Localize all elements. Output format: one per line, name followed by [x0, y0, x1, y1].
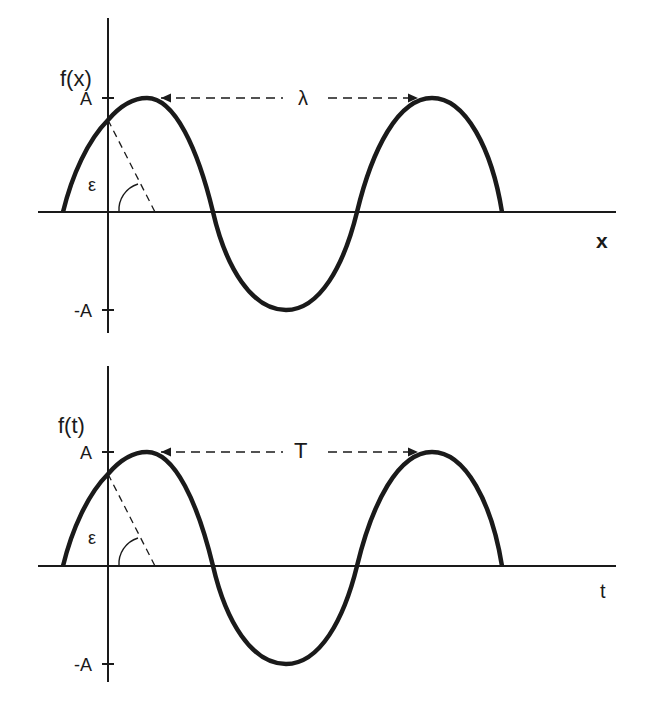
phase-arc — [119, 184, 138, 212]
x-axis-label: x — [596, 229, 608, 252]
sine-curve — [63, 98, 502, 310]
phase-line — [108, 474, 155, 566]
t-axis-label: t — [600, 580, 606, 602]
amplitude-label: A — [80, 89, 92, 109]
wave-diagram: f(x) A -A ε λ x f(t) A -A ε T t — [0, 0, 647, 720]
spatial-wave-panel: f(x) A -A ε λ x — [38, 18, 616, 333]
y-axis-label: f(x) — [60, 66, 92, 91]
sine-curve — [63, 452, 502, 664]
temporal-wave-panel: f(t) A -A ε T t — [38, 366, 616, 682]
amplitude-label: A — [80, 443, 92, 463]
period-label: T — [294, 438, 307, 463]
phase-label: ε — [88, 175, 96, 195]
phase-line — [108, 120, 155, 212]
neg-amplitude-label: -A — [74, 301, 92, 321]
wavelength-label: λ — [298, 87, 308, 109]
phase-arc — [119, 538, 138, 566]
phase-label: ε — [88, 528, 96, 548]
neg-amplitude-label: -A — [74, 655, 92, 675]
y-axis-label: f(t) — [58, 413, 85, 438]
